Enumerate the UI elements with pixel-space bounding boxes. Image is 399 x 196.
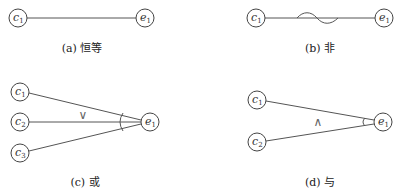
- caption-d: (d) 与: [305, 176, 335, 189]
- node-d-c2: c2: [248, 133, 266, 151]
- node-subscript: 3: [21, 152, 25, 160]
- and-operator-symbol: ∧: [314, 115, 323, 129]
- node-c-c1: c1: [11, 83, 29, 101]
- node-subscript: 1: [257, 17, 261, 25]
- node-d-c1: c1: [248, 91, 266, 109]
- panel-a-identity: c1 e1 (a) 恒等: [9, 9, 154, 55]
- node-a-c1: c1: [9, 9, 27, 27]
- panel-d-and: ∧ c1 c2 e1 (d) 与: [248, 91, 392, 189]
- caption-c: (c) 或: [70, 176, 99, 189]
- node-d-e1: e1: [374, 113, 392, 131]
- node-b-c1: c1: [247, 9, 265, 27]
- node-a-e1: e1: [136, 9, 154, 27]
- node-c-c2: c2: [11, 113, 29, 131]
- node-c-e1: e1: [141, 113, 159, 131]
- node-subscript: 1: [258, 99, 262, 107]
- node-c-c3: c3: [11, 144, 29, 162]
- node-b-e1: e1: [375, 9, 393, 27]
- node-subscript: 1: [21, 91, 25, 99]
- edge-c-c3-e1: [29, 124, 141, 151]
- node-subscript: 1: [385, 121, 389, 129]
- and-arc-icon: [363, 118, 365, 126]
- node-subscript: 1: [152, 121, 156, 129]
- node-subscript: 2: [258, 141, 262, 149]
- or-operator-symbol: ∨: [79, 108, 88, 122]
- node-subscript: 1: [19, 17, 23, 25]
- panel-c-or: ∨ c1 c2 c3 e1 (c) 或: [11, 83, 159, 189]
- caption-a: (a) 恒等: [62, 41, 103, 55]
- cause-effect-diagram: c1 e1 (a) 恒等 c1 e1 (b) 非 ∨ c1: [0, 0, 399, 196]
- panel-b-negation: c1 e1 (b) 非: [247, 9, 393, 55]
- node-subscript: 1: [386, 17, 390, 25]
- node-subscript: 2: [21, 121, 25, 129]
- node-subscript: 1: [147, 17, 151, 25]
- caption-b: (b) 非: [305, 42, 335, 55]
